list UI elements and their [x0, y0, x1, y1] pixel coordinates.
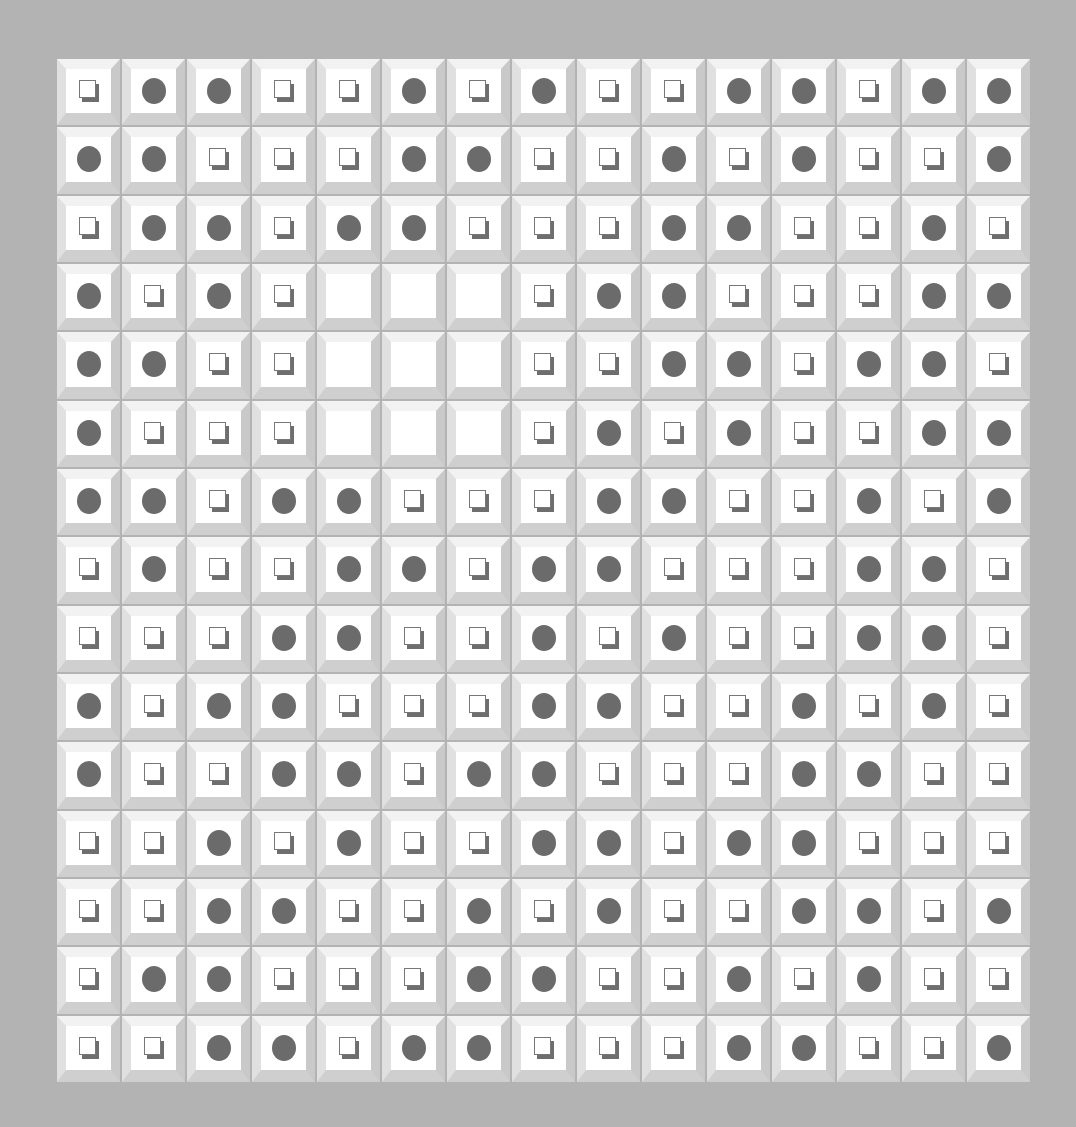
board-cell-circle-tile[interactable] — [317, 811, 380, 877]
board-cell-circle-tile[interactable] — [902, 537, 965, 603]
board-cell-square-tile[interactable] — [772, 264, 835, 330]
board-cell-circle-tile[interactable] — [577, 674, 640, 740]
board-cell-square-tile[interactable] — [447, 59, 510, 125]
board-cell-circle-tile[interactable] — [577, 879, 640, 945]
board-cell-circle-tile[interactable] — [512, 606, 575, 672]
board-cell-square-tile[interactable] — [187, 401, 250, 467]
board-cell-circle-tile[interactable] — [187, 947, 250, 1013]
board-cell-square-tile[interactable] — [382, 811, 445, 877]
board-cell-square-tile[interactable] — [642, 879, 705, 945]
board-cell-circle-tile[interactable] — [707, 196, 770, 262]
board-cell-square-tile[interactable] — [122, 674, 185, 740]
board-cell-circle-tile[interactable] — [902, 401, 965, 467]
board-cell-circle-tile[interactable] — [512, 674, 575, 740]
board-cell-circle-tile[interactable] — [317, 537, 380, 603]
board-cell-square-tile[interactable] — [967, 537, 1030, 603]
board-cell-circle-tile[interactable] — [187, 1016, 250, 1082]
board-cell-circle-tile[interactable] — [772, 811, 835, 877]
board-cell-square-tile[interactable] — [772, 469, 835, 535]
board-cell-empty-tile[interactable] — [382, 332, 445, 398]
board-cell-square-tile[interactable] — [772, 537, 835, 603]
board-cell-circle-tile[interactable] — [382, 196, 445, 262]
board-cell-empty-tile[interactable] — [317, 401, 380, 467]
board-cell-circle-tile[interactable] — [577, 401, 640, 467]
board-cell-square-tile[interactable] — [447, 606, 510, 672]
board-cell-square-tile[interactable] — [902, 947, 965, 1013]
board-cell-square-tile[interactable] — [382, 879, 445, 945]
board-cell-circle-tile[interactable] — [317, 742, 380, 808]
board-cell-circle-tile[interactable] — [577, 264, 640, 330]
board-cell-square-tile[interactable] — [707, 674, 770, 740]
board-cell-circle-tile[interactable] — [967, 264, 1030, 330]
board-cell-square-tile[interactable] — [707, 606, 770, 672]
board-cell-square-tile[interactable] — [317, 1016, 380, 1082]
board-cell-square-tile[interactable] — [252, 59, 315, 125]
board-cell-empty-tile[interactable] — [317, 264, 380, 330]
board-cell-square-tile[interactable] — [57, 59, 120, 125]
board-cell-circle-tile[interactable] — [122, 947, 185, 1013]
board-cell-circle-tile[interactable] — [837, 742, 900, 808]
board-cell-circle-tile[interactable] — [707, 59, 770, 125]
board-cell-square-tile[interactable] — [772, 196, 835, 262]
board-cell-square-tile[interactable] — [577, 606, 640, 672]
board-cell-circle-tile[interactable] — [642, 606, 705, 672]
board-cell-square-tile[interactable] — [187, 332, 250, 398]
board-cell-circle-tile[interactable] — [252, 674, 315, 740]
board-cell-circle-tile[interactable] — [967, 1016, 1030, 1082]
board-cell-circle-tile[interactable] — [642, 196, 705, 262]
board-cell-circle-tile[interactable] — [187, 196, 250, 262]
board-cell-circle-tile[interactable] — [317, 606, 380, 672]
board-cell-circle-tile[interactable] — [837, 947, 900, 1013]
board-cell-square-tile[interactable] — [707, 469, 770, 535]
board-cell-circle-tile[interactable] — [512, 811, 575, 877]
board-cell-square-tile[interactable] — [967, 332, 1030, 398]
board-cell-circle-tile[interactable] — [122, 59, 185, 125]
board-cell-square-tile[interactable] — [967, 947, 1030, 1013]
board-cell-circle-tile[interactable] — [577, 469, 640, 535]
board-cell-circle-tile[interactable] — [122, 469, 185, 535]
board-cell-square-tile[interactable] — [252, 196, 315, 262]
board-cell-circle-tile[interactable] — [252, 469, 315, 535]
board-cell-square-tile[interactable] — [317, 947, 380, 1013]
board-cell-square-tile[interactable] — [837, 401, 900, 467]
board-cell-square-tile[interactable] — [122, 879, 185, 945]
board-cell-circle-tile[interactable] — [187, 59, 250, 125]
board-cell-circle-tile[interactable] — [382, 1016, 445, 1082]
board-cell-circle-tile[interactable] — [707, 401, 770, 467]
board-cell-circle-tile[interactable] — [902, 264, 965, 330]
board-cell-circle-tile[interactable] — [252, 1016, 315, 1082]
board-cell-circle-tile[interactable] — [122, 537, 185, 603]
board-cell-empty-tile[interactable] — [447, 332, 510, 398]
board-cell-circle-tile[interactable] — [382, 127, 445, 193]
board-cell-circle-tile[interactable] — [967, 469, 1030, 535]
board-cell-circle-tile[interactable] — [837, 332, 900, 398]
board-cell-square-tile[interactable] — [707, 127, 770, 193]
board-cell-square-tile[interactable] — [57, 537, 120, 603]
board-cell-circle-tile[interactable] — [967, 401, 1030, 467]
board-cell-square-tile[interactable] — [447, 811, 510, 877]
board-cell-square-tile[interactable] — [577, 196, 640, 262]
board-cell-empty-tile[interactable] — [382, 401, 445, 467]
board-cell-square-tile[interactable] — [122, 606, 185, 672]
board-cell-square-tile[interactable] — [57, 947, 120, 1013]
board-cell-circle-tile[interactable] — [772, 742, 835, 808]
board-cell-circle-tile[interactable] — [57, 469, 120, 535]
board-cell-square-tile[interactable] — [187, 742, 250, 808]
board-cell-square-tile[interactable] — [642, 537, 705, 603]
board-cell-circle-tile[interactable] — [57, 127, 120, 193]
board-cell-square-tile[interactable] — [772, 606, 835, 672]
board-cell-circle-tile[interactable] — [837, 537, 900, 603]
board-cell-square-tile[interactable] — [577, 332, 640, 398]
board-cell-square-tile[interactable] — [252, 332, 315, 398]
board-cell-square-tile[interactable] — [122, 264, 185, 330]
board-cell-square-tile[interactable] — [642, 742, 705, 808]
board-cell-square-tile[interactable] — [512, 196, 575, 262]
board-cell-square-tile[interactable] — [512, 401, 575, 467]
board-cell-square-tile[interactable] — [902, 811, 965, 877]
board-cell-circle-tile[interactable] — [967, 59, 1030, 125]
board-cell-circle-tile[interactable] — [512, 537, 575, 603]
board-cell-square-tile[interactable] — [642, 947, 705, 1013]
board-cell-square-tile[interactable] — [642, 674, 705, 740]
board-cell-circle-tile[interactable] — [967, 127, 1030, 193]
board-cell-circle-tile[interactable] — [902, 606, 965, 672]
